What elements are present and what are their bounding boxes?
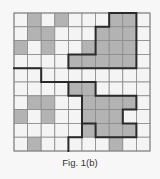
grid-cell bbox=[68, 41, 82, 55]
grid-cell bbox=[96, 82, 110, 96]
grid-cell bbox=[123, 137, 137, 151]
grid-cell-shaded bbox=[68, 54, 82, 68]
grid-cell-shaded bbox=[96, 27, 110, 41]
grid-cell bbox=[136, 68, 150, 82]
grid-cell bbox=[41, 54, 55, 68]
grid-cell-shaded bbox=[82, 54, 96, 68]
grid-cell-shaded bbox=[109, 96, 123, 110]
grid-cell bbox=[82, 68, 96, 82]
grid-cell bbox=[55, 68, 69, 82]
grid-cell bbox=[55, 54, 69, 68]
grid-cell bbox=[28, 110, 42, 124]
grid-cell bbox=[28, 82, 42, 96]
grid-cell-shaded bbox=[28, 96, 42, 110]
grid-cell bbox=[28, 54, 42, 68]
grid-cell bbox=[55, 27, 69, 41]
grid-cell bbox=[123, 110, 137, 124]
grid-cell-shaded bbox=[55, 13, 69, 27]
grid-cell bbox=[68, 96, 82, 110]
grid-cell-shaded bbox=[28, 27, 42, 41]
grid-cell bbox=[55, 123, 69, 137]
grid-cell-shaded bbox=[123, 123, 137, 137]
grid-cell bbox=[55, 110, 69, 124]
grid-cell bbox=[82, 137, 96, 151]
grid-cell bbox=[68, 110, 82, 124]
grid-cell bbox=[68, 137, 82, 151]
grid-cell bbox=[28, 41, 42, 55]
grid-cell bbox=[55, 41, 69, 55]
grid-cell bbox=[28, 123, 42, 137]
grid-cell bbox=[136, 110, 150, 124]
grid-cell bbox=[28, 68, 42, 82]
grid-cell bbox=[109, 68, 123, 82]
grid-cell bbox=[68, 68, 82, 82]
grid-cell-shaded bbox=[82, 96, 96, 110]
grid-cell bbox=[55, 96, 69, 110]
grid-cell-shaded bbox=[109, 27, 123, 41]
grid-cell bbox=[14, 96, 28, 110]
grid-cell bbox=[14, 123, 28, 137]
grid-cell bbox=[14, 82, 28, 96]
grid-cell-shaded bbox=[28, 13, 42, 27]
grid-cell-shaded bbox=[41, 27, 55, 41]
grid-cell-shaded bbox=[109, 13, 123, 27]
grid-cell bbox=[14, 13, 28, 27]
grid-cell-shaded bbox=[41, 110, 55, 124]
grid-cell bbox=[136, 137, 150, 151]
grid-cell-shaded bbox=[96, 41, 110, 55]
grid-cell bbox=[14, 54, 28, 68]
grid-cell bbox=[82, 27, 96, 41]
grid-cell bbox=[41, 137, 55, 151]
grid-cell bbox=[136, 96, 150, 110]
grid-cell bbox=[136, 123, 150, 137]
grid-figure: Fig. 1(b) bbox=[0, 0, 160, 179]
grid-cell bbox=[136, 82, 150, 96]
grid-diagram bbox=[0, 0, 160, 179]
grid-cell-shaded bbox=[123, 96, 137, 110]
grid-cell bbox=[82, 13, 96, 27]
grid-cell-shaded bbox=[123, 27, 137, 41]
grid-cell-shaded bbox=[82, 82, 96, 96]
grid-cell bbox=[136, 54, 150, 68]
figure-caption: Fig. 1(b) bbox=[0, 157, 160, 168]
grid-cell-shaded bbox=[82, 110, 96, 124]
grid-cell bbox=[55, 82, 69, 96]
grid-cell bbox=[96, 137, 110, 151]
grid-cell bbox=[109, 82, 123, 96]
grid-cell-shaded bbox=[109, 123, 123, 137]
grid-cell-shaded bbox=[123, 13, 137, 27]
grid-cell-shaded bbox=[123, 54, 137, 68]
grid-cell-shaded bbox=[109, 137, 123, 151]
grid-cell-shaded bbox=[96, 110, 110, 124]
grid-cell-shaded bbox=[123, 41, 137, 55]
grid-cell bbox=[41, 82, 55, 96]
grid-cell bbox=[136, 13, 150, 27]
grid-cell-shaded bbox=[109, 54, 123, 68]
grid-cell bbox=[96, 68, 110, 82]
grid-cell-shaded bbox=[109, 41, 123, 55]
grid-cell bbox=[41, 68, 55, 82]
grid-cell bbox=[14, 68, 28, 82]
grid-cell bbox=[41, 13, 55, 27]
grid-cell-shaded bbox=[68, 82, 82, 96]
grid-cell-shaded bbox=[14, 110, 28, 124]
grid-cell-shaded bbox=[96, 96, 110, 110]
grid-cell-shaded bbox=[96, 123, 110, 137]
grid-cell-shaded bbox=[96, 54, 110, 68]
grid-cell bbox=[136, 27, 150, 41]
grid-cell bbox=[14, 137, 28, 151]
grid-cell-shaded bbox=[28, 137, 42, 151]
grid-cell-shaded bbox=[41, 96, 55, 110]
grid-cell bbox=[55, 137, 69, 151]
grid-cell bbox=[123, 82, 137, 96]
grid-cell-shaded bbox=[82, 41, 96, 55]
grid-cell bbox=[41, 123, 55, 137]
grid-cell bbox=[96, 13, 110, 27]
grid-cell bbox=[68, 27, 82, 41]
grid-cell bbox=[14, 27, 28, 41]
grid-cell bbox=[68, 13, 82, 27]
grid-cell bbox=[136, 41, 150, 55]
grid-cell-shaded bbox=[41, 41, 55, 55]
grid-cell-shaded bbox=[109, 110, 123, 124]
grid-cell bbox=[123, 68, 137, 82]
